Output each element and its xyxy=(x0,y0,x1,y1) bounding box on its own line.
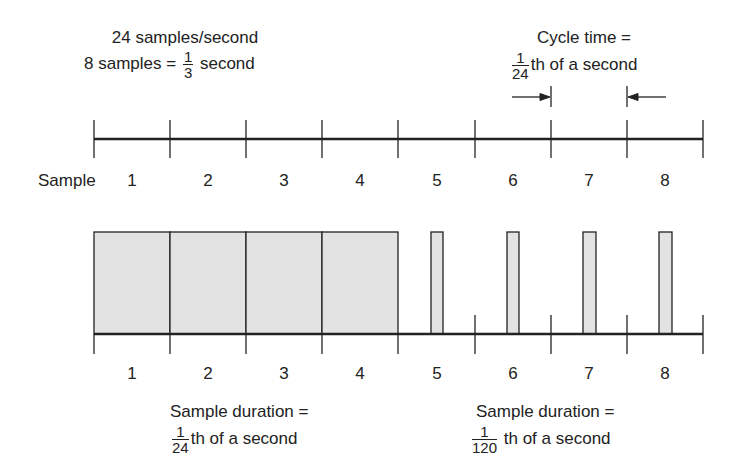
bottom-sample-4: 4 xyxy=(345,364,375,384)
cycle-time-arrows xyxy=(512,86,666,107)
right-caption-value: 1120 th of a second xyxy=(470,424,611,455)
fraction-one-24th-left: 124 xyxy=(172,424,189,455)
cycle-time-label: Cycle time = xyxy=(537,28,631,48)
bottom-sample-5: 5 xyxy=(422,364,452,384)
top-sample-8: 8 xyxy=(650,171,680,191)
top-sample-1: 1 xyxy=(117,171,147,191)
sample-row-label: Sample xyxy=(38,171,96,191)
duration-equation: 8 samples = 13 second xyxy=(84,49,255,80)
top-sample-7: 7 xyxy=(574,171,604,191)
cycle-time-value: 124th of a second xyxy=(510,50,638,81)
equation-prefix: 8 samples = xyxy=(84,54,176,73)
top-timeline xyxy=(94,120,703,158)
top-sample-2: 2 xyxy=(193,171,223,191)
bottom-sample-8: 8 xyxy=(650,364,680,384)
top-sample-3: 3 xyxy=(269,171,299,191)
bottom-sample-2: 2 xyxy=(193,364,223,384)
bottom-sample-7: 7 xyxy=(574,364,604,384)
bottom-sample-3: 3 xyxy=(269,364,299,384)
top-sample-6: 6 xyxy=(498,171,528,191)
equation-suffix: second xyxy=(200,54,255,73)
left-caption-value: 124th of a second xyxy=(170,424,298,455)
left-caption-title: Sample duration = xyxy=(170,402,308,422)
right-caption-title: Sample duration = xyxy=(476,402,614,422)
top-sample-4: 4 xyxy=(345,171,375,191)
bottom-sample-1: 1 xyxy=(117,364,147,384)
fraction-one-24th: 124 xyxy=(512,50,529,81)
top-sample-5: 5 xyxy=(422,171,452,191)
fraction-one-120th: 1120 xyxy=(472,424,497,455)
rate-label: 24 samples/second xyxy=(100,28,270,48)
wide-sample-bars xyxy=(94,232,398,334)
bottom-sample-6: 6 xyxy=(498,364,528,384)
fraction-one-third: 13 xyxy=(183,49,193,80)
